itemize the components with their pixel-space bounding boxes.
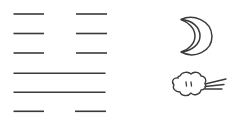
wind-cloud-icon (173, 72, 226, 95)
crescent-moon-icon (181, 18, 212, 55)
hexagram (14, 14, 108, 111)
figure (0, 0, 234, 133)
hexagram-figure (0, 0, 234, 133)
